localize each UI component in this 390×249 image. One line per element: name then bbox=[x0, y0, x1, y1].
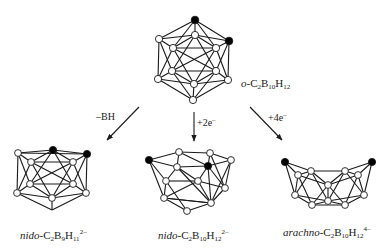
label-nido-c2b9h11: nido-C2B9H112– bbox=[20, 229, 87, 243]
label-arrow-plus-2e: +2e– bbox=[197, 116, 216, 128]
label-o-carborane: o-C2B10H12 bbox=[241, 78, 290, 91]
label-arrow-plus-4e: +4e– bbox=[268, 111, 287, 123]
carbon-atom bbox=[191, 16, 199, 24]
diagram-canvas bbox=[0, 0, 390, 249]
cage-nido-c2b10 bbox=[149, 152, 231, 211]
label-nido-c2b10h12: nido-C2B10H122– bbox=[158, 229, 228, 243]
carbon-atom bbox=[225, 37, 233, 45]
label-arrow-minus-bh: –BH bbox=[96, 111, 115, 122]
label-arachno-c2b10h12: arachno-C2B10H124– bbox=[283, 226, 370, 240]
reaction-arrows bbox=[107, 107, 282, 141]
